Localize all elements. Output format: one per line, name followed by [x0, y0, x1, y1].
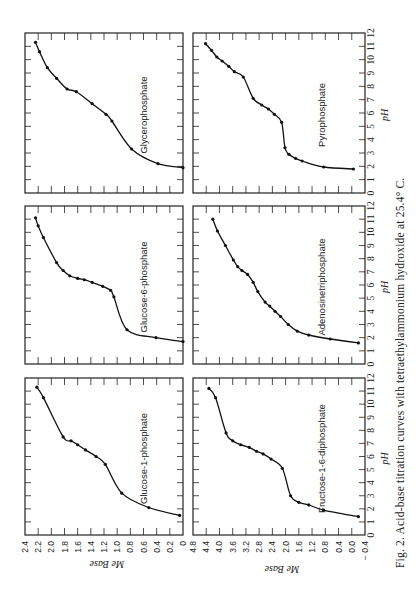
panel-glycerophosphate: Glycerophosphate	[25, 33, 185, 193]
data-point	[296, 329, 299, 332]
me-base-tick-label: 0.8	[125, 541, 135, 553]
titration-curve	[213, 219, 359, 343]
ph-tick-label: 2	[366, 506, 376, 511]
data-point	[101, 285, 104, 288]
data-point	[256, 290, 259, 293]
me-base-tick-label: 3.2	[241, 541, 251, 553]
data-point	[232, 258, 235, 261]
titration-curve	[209, 389, 359, 517]
data-point	[283, 146, 286, 149]
panel-glucose-6-phosphate: Glucose-6-phosphate	[25, 206, 185, 364]
data-point	[147, 506, 150, 509]
data-point	[120, 492, 123, 495]
data-point	[297, 501, 300, 504]
data-point	[252, 97, 255, 100]
data-point	[236, 265, 239, 268]
data-point	[204, 42, 207, 45]
panel-title: Glucose-1-phosphate	[138, 413, 149, 504]
panel-glucose-1-phosphate: Glucose-1-phosphate	[25, 378, 183, 535]
ph-tick-label: 12	[366, 28, 376, 38]
data-point	[34, 41, 37, 44]
me-base-tick-label: 4.4	[201, 541, 211, 553]
data-point	[75, 90, 78, 93]
data-point	[307, 333, 310, 336]
ph-tick-label: 8	[366, 428, 376, 433]
data-point	[233, 70, 236, 73]
ph-tick-label: 6	[366, 282, 376, 287]
data-point	[104, 463, 107, 466]
panel-adenosinetriphosphate: Adenosinetriphosphate	[193, 206, 365, 364]
me-base-tick-label: 1.2	[307, 541, 317, 553]
data-point	[273, 113, 276, 116]
ph-tick-label: 8	[366, 84, 376, 89]
panel-title: Glucose-6-phosphate	[138, 242, 149, 333]
panel-fructose-1-6-diphosphate: Fructose-1-6-diphosphate	[193, 378, 365, 535]
data-point	[279, 315, 282, 318]
data-point	[83, 278, 86, 281]
data-point	[248, 446, 251, 449]
me-base-tick-label: 0	[178, 541, 188, 546]
ph-tick-label: 3	[366, 322, 376, 327]
data-point	[289, 494, 292, 497]
data-point	[91, 102, 94, 105]
ph-axis-label: pH	[379, 108, 390, 122]
figure-page: Glucose-1-phosphateGlucose-6-phosphateGl…	[0, 0, 416, 589]
data-point	[221, 59, 224, 62]
me-base-tick-label: 2.0	[281, 541, 291, 553]
ph-tick-label: 9	[366, 70, 376, 75]
ph-tick-label: 12	[366, 373, 376, 383]
me-base-tick-label: 4.0	[214, 541, 224, 553]
data-point	[252, 281, 255, 284]
me-base-axis-label: Me Base	[89, 559, 125, 570]
me-base-tick-label: 0.6	[139, 541, 149, 553]
data-point	[357, 515, 360, 518]
titration-curve	[36, 42, 184, 167]
me-base-tick-label: 2.8	[254, 541, 264, 553]
data-point	[110, 119, 113, 122]
ph-tick-label: 5	[366, 296, 376, 301]
ph-tick-label: 7	[366, 269, 376, 274]
me-base-tick-label: 0.2	[165, 541, 175, 553]
data-point	[224, 244, 227, 247]
ph-tick-label: 8	[366, 256, 376, 261]
data-point	[46, 66, 49, 69]
data-point	[231, 439, 234, 442]
data-point	[178, 514, 181, 517]
data-point	[55, 77, 58, 80]
me-base-tick-label: − 0.4	[360, 541, 370, 560]
data-point	[69, 439, 72, 442]
plot-frame	[25, 206, 183, 364]
ph-tick-label: 1	[366, 177, 376, 182]
me-base-tick-label: 4.8	[188, 541, 198, 553]
figure-caption: Fig. 2. Acid-base titration curves with …	[394, 178, 407, 568]
data-point	[42, 236, 45, 239]
data-point	[35, 386, 38, 389]
data-point	[181, 166, 184, 169]
data-point	[294, 157, 297, 160]
data-point	[62, 269, 65, 272]
titration-curve	[37, 387, 180, 515]
ph-tick-label: 9	[366, 243, 376, 248]
data-point	[130, 147, 133, 150]
data-point	[34, 216, 37, 219]
data-point	[227, 65, 230, 68]
data-point	[207, 387, 210, 390]
data-point	[215, 55, 218, 58]
data-point	[268, 304, 271, 307]
data-point	[260, 103, 263, 106]
ph-tick-label: 11	[366, 42, 376, 51]
plot-frame	[193, 378, 365, 535]
panel-title: Glycerophosphate	[138, 76, 149, 153]
data-point	[224, 431, 227, 434]
data-point	[287, 153, 290, 156]
data-point	[264, 301, 267, 304]
ph-tick-label: 11	[366, 214, 376, 223]
me-base-tick-label: 0.4	[152, 541, 162, 553]
data-point	[307, 503, 310, 506]
me-base-axis-label: Me Base	[264, 564, 300, 575]
ph-tick-label: 11	[366, 386, 376, 395]
ph-tick-label: 2	[366, 164, 376, 169]
me-base-tick-label: 0.4	[334, 541, 344, 553]
me-base-tick-label: 0.8	[320, 541, 330, 553]
ph-tick-label: 4	[366, 480, 376, 485]
